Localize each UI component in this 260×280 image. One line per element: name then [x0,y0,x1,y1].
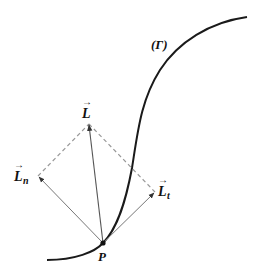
vector-decomposition-diagram: (Γ) P → L → L n → L t [0,0,260,280]
point-p-dot [100,240,105,245]
vector-l-arrow [89,125,103,243]
label-lt: → L t [157,174,171,201]
label-ln: → L n [13,159,29,186]
label-l: → L [81,96,92,121]
label-l-symbol: L [81,106,91,121]
point-label: P [98,249,107,264]
label-ln-symbol: L [13,169,23,184]
vector-lt-arrow [103,193,154,243]
label-lt-subscript: t [167,190,171,201]
dashed-line-ln-to-l [38,124,89,176]
dashed-line-l-to-lt [89,124,155,192]
curve-label: (Γ) [151,37,168,52]
label-lt-symbol: L [157,184,167,199]
curve-gamma [47,17,247,260]
label-ln-subscript: n [23,175,29,186]
vector-ln-arrow [39,177,103,243]
